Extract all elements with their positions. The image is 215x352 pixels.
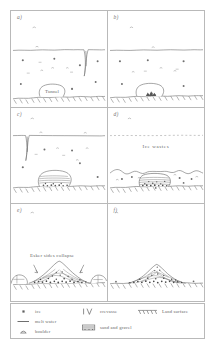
legend-item-ice: ice [16, 307, 41, 316]
land-surface-symbol [137, 307, 159, 316]
panel-a-annotation: Tunnel [45, 89, 59, 94]
esker-formation-figure: a) [10, 10, 205, 302]
ice-symbol [16, 307, 32, 316]
legend-label-boulder: boulder [35, 329, 50, 334]
panel-e: e) [11, 204, 108, 301]
legend-item-sand-and-gravel: sand and gravel [81, 324, 132, 331]
panel-f-label: f) [114, 207, 118, 213]
legend-item-land-surface: Land surface [137, 307, 188, 316]
panel-d: d) [108, 108, 205, 205]
boulder-symbol [16, 327, 32, 336]
legend-label-ice: ice [35, 309, 41, 314]
legend-label-sand-and-gravel: sand and gravel [100, 325, 132, 330]
legend-label-melt-water: melt water [35, 319, 57, 324]
panel-d-annotation: Ice wastes [143, 144, 170, 149]
panel-e-annotation: Esker sides collapse [30, 253, 74, 258]
panel-a-label: a) [17, 14, 22, 20]
panel-c: c) [11, 108, 108, 205]
panel-a: a) [11, 11, 108, 108]
sand-and-gravel-symbol [81, 324, 97, 331]
panel-d-label: d) [114, 111, 119, 117]
legend-item-crevasse: crevasse [81, 307, 117, 316]
panel-b: b) [108, 11, 205, 108]
panel-b-label: b) [114, 14, 119, 20]
crevasse-symbol [81, 307, 97, 316]
melt-water-symbol [16, 317, 32, 326]
panel-c-label: c) [17, 111, 22, 117]
legend-label-crevasse: crevasse [100, 309, 117, 314]
legend-item-boulder: boulder [16, 327, 50, 336]
legend-item-melt-water: melt water [16, 317, 57, 326]
legend-box: ice melt water boulder crevasse sand and… [10, 303, 205, 339]
legend-label-land-surface: Land surface [162, 309, 188, 314]
panel-e-label: e) [17, 207, 22, 213]
panel-f: f) [108, 204, 205, 301]
